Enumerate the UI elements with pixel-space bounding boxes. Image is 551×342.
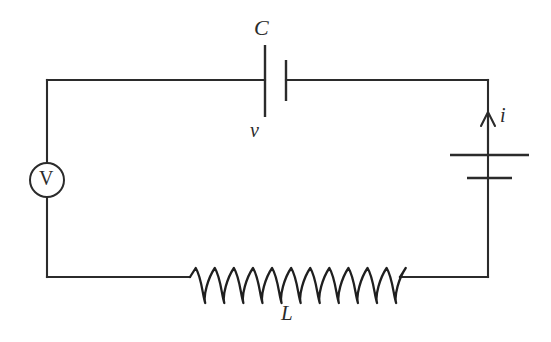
inductor-coil — [190, 268, 406, 303]
capacitor-voltage-label: v — [250, 120, 259, 140]
capacitor-label: C — [254, 17, 269, 39]
circuit-diagram-canvas: C v i L V — [0, 0, 551, 342]
circuit-schematic — [0, 0, 551, 342]
voltmeter-label: V — [39, 168, 53, 188]
current-label: i — [500, 105, 506, 125]
inductor-label: L — [281, 303, 293, 324]
